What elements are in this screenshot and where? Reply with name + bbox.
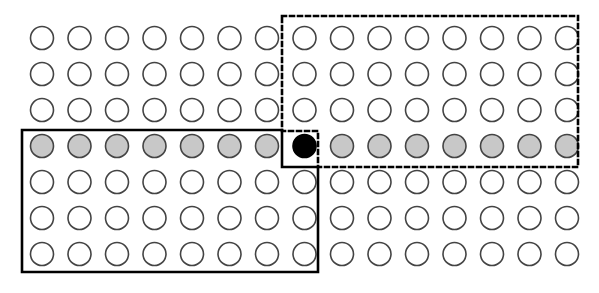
lattice-circle[interactable] — [331, 243, 354, 266]
lattice-circle[interactable] — [106, 207, 129, 230]
lattice-circle[interactable] — [518, 171, 541, 194]
lattice-circle[interactable] — [181, 207, 204, 230]
lattice-circle[interactable] — [143, 135, 166, 158]
lattice-circle[interactable] — [443, 207, 466, 230]
lattice-circle[interactable] — [143, 63, 166, 86]
lattice-circle[interactable] — [481, 243, 504, 266]
lattice-circle[interactable] — [481, 63, 504, 86]
lattice-circle[interactable] — [31, 27, 54, 50]
lattice-circle[interactable] — [443, 135, 466, 158]
lattice-circle[interactable] — [331, 63, 354, 86]
lattice-circle[interactable] — [256, 243, 279, 266]
lattice-circle[interactable] — [518, 63, 541, 86]
lattice-circle[interactable] — [143, 99, 166, 122]
lattice-circle[interactable] — [181, 243, 204, 266]
lattice-circle[interactable] — [256, 63, 279, 86]
lattice-circle[interactable] — [331, 135, 354, 158]
lattice-circle[interactable] — [218, 99, 241, 122]
lattice-circle[interactable] — [106, 99, 129, 122]
lattice-circle[interactable] — [106, 63, 129, 86]
lattice-circle[interactable] — [68, 27, 91, 50]
lattice-circle[interactable] — [556, 99, 579, 122]
lattice-circle[interactable] — [256, 135, 279, 158]
lattice-circle[interactable] — [556, 135, 579, 158]
lattice-circle[interactable] — [406, 171, 429, 194]
lattice-circle[interactable] — [68, 63, 91, 86]
lattice-circle[interactable] — [31, 243, 54, 266]
lattice-circle[interactable] — [556, 171, 579, 194]
lattice-circle[interactable] — [143, 243, 166, 266]
lattice-circle[interactable] — [181, 27, 204, 50]
lattice-circle[interactable] — [181, 171, 204, 194]
lattice-circle[interactable] — [331, 207, 354, 230]
lattice-circle[interactable] — [218, 135, 241, 158]
lattice-circle[interactable] — [68, 243, 91, 266]
lattice-circle[interactable] — [218, 27, 241, 50]
lattice-circle[interactable] — [256, 207, 279, 230]
lattice-circle[interactable] — [481, 27, 504, 50]
lattice-circle[interactable] — [406, 207, 429, 230]
lattice-circle[interactable] — [68, 207, 91, 230]
lattice-circle[interactable] — [556, 243, 579, 266]
lattice-circle[interactable] — [443, 63, 466, 86]
lattice-circle[interactable] — [181, 135, 204, 158]
lattice-circle[interactable] — [556, 207, 579, 230]
lattice-circle[interactable] — [31, 135, 54, 158]
lattice-circle[interactable] — [256, 171, 279, 194]
lattice-circle[interactable] — [331, 27, 354, 50]
lattice-circle[interactable] — [256, 99, 279, 122]
lattice-circle[interactable] — [331, 171, 354, 194]
lattice-circle[interactable] — [556, 27, 579, 50]
lattice-circle[interactable] — [31, 171, 54, 194]
lattice-circle[interactable] — [143, 171, 166, 194]
lattice-circle[interactable] — [181, 63, 204, 86]
lattice-circle[interactable] — [293, 171, 316, 194]
lattice-circle[interactable] — [106, 27, 129, 50]
lattice-circle[interactable] — [181, 99, 204, 122]
lattice-circle[interactable] — [443, 27, 466, 50]
lattice-circle[interactable] — [481, 135, 504, 158]
lattice-circle[interactable] — [143, 207, 166, 230]
lattice-circle[interactable] — [368, 171, 391, 194]
lattice-circle[interactable] — [143, 27, 166, 50]
lattice-circle[interactable] — [293, 63, 316, 86]
lattice-circle[interactable] — [518, 99, 541, 122]
lattice-circle[interactable] — [218, 243, 241, 266]
lattice-circle[interactable] — [481, 99, 504, 122]
lattice-circle[interactable] — [443, 99, 466, 122]
lattice-circle[interactable] — [31, 99, 54, 122]
lattice-circle[interactable] — [293, 207, 316, 230]
lattice-circle[interactable] — [218, 171, 241, 194]
lattice-circle[interactable] — [218, 207, 241, 230]
lattice-circle[interactable] — [293, 99, 316, 122]
lattice-circle[interactable] — [68, 135, 91, 158]
lattice-circle[interactable] — [406, 63, 429, 86]
lattice-circle[interactable] — [331, 99, 354, 122]
lattice-circle[interactable] — [31, 207, 54, 230]
lattice-circle[interactable] — [293, 27, 316, 50]
lattice-circle[interactable] — [368, 27, 391, 50]
lattice-circle[interactable] — [218, 63, 241, 86]
lattice-circle[interactable] — [406, 27, 429, 50]
lattice-circle[interactable] — [368, 243, 391, 266]
lattice-circle[interactable] — [406, 243, 429, 266]
lattice-circle[interactable] — [518, 243, 541, 266]
lattice-circle[interactable] — [368, 207, 391, 230]
lattice-circle[interactable] — [368, 63, 391, 86]
lattice-circle[interactable] — [106, 243, 129, 266]
lattice-circle[interactable] — [518, 27, 541, 50]
lattice-circle[interactable] — [443, 171, 466, 194]
lattice-circle[interactable] — [518, 135, 541, 158]
lattice-circle[interactable] — [518, 207, 541, 230]
lattice-circle[interactable] — [256, 27, 279, 50]
lattice-circle[interactable] — [368, 135, 391, 158]
lattice-circle[interactable] — [368, 99, 391, 122]
lattice-circle[interactable] — [406, 135, 429, 158]
lattice-circle[interactable] — [481, 207, 504, 230]
lattice-circle[interactable] — [293, 243, 316, 266]
lattice-circle[interactable] — [443, 243, 466, 266]
lattice-circle[interactable] — [106, 135, 129, 158]
lattice-circle[interactable] — [68, 99, 91, 122]
lattice-circle-highlighted[interactable] — [293, 135, 316, 158]
lattice-circle[interactable] — [68, 171, 91, 194]
